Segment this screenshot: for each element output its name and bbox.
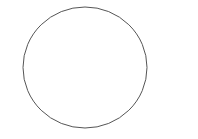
circle-shape [23, 7, 147, 128]
diagram-svg [0, 0, 198, 139]
diagram-canvas [0, 0, 198, 139]
